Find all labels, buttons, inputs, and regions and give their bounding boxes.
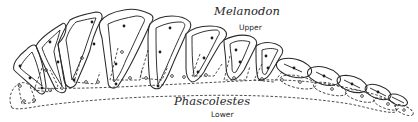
upper-tooth-4	[99, 9, 153, 88]
upper-tooth-8-inner	[262, 49, 278, 75]
upper-tooth-3-inner	[66, 18, 96, 80]
upper-tooth-7	[224, 35, 257, 80]
upper-tooth-7-inner	[230, 41, 250, 73]
upper-genus-label: Melanodon	[214, 6, 280, 18]
tooth-row-diagram: Melanodon Upper Phascolestes Lower	[0, 0, 418, 122]
lower-tooth-5	[140, 50, 168, 80]
upper-posterior-ridges	[284, 64, 404, 103]
lower-jaw-label: Lower	[211, 111, 233, 119]
upper-tooth-1-inner	[20, 52, 42, 86]
lower-genus-label: Phascolestes	[174, 96, 250, 108]
upper-jaw-label: Upper	[239, 24, 262, 32]
